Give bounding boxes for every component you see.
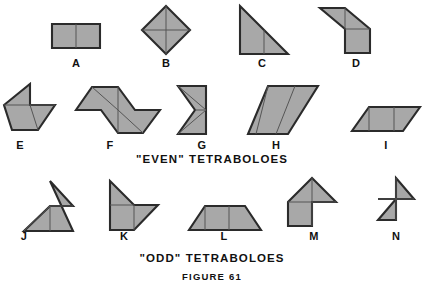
shape-label-j: J — [21, 230, 27, 242]
figure-caption: FIGURE 61 — [182, 271, 242, 282]
tetraboloes-canvas: A B C D E — [0, 0, 424, 286]
shape-label-l: L — [220, 230, 227, 242]
shape-label-e: E — [16, 139, 24, 151]
shape-label-c: C — [258, 57, 266, 69]
shape-label-d: D — [352, 57, 360, 69]
section-caption-even: "EVEN" TETRABOLOES — [136, 153, 288, 165]
shape-label-b: B — [162, 57, 170, 69]
shape-label-f: F — [106, 139, 113, 151]
shape-label-k: K — [120, 230, 128, 242]
shape-label-i: I — [384, 139, 387, 151]
figure-61-diagram: A B C D E — [0, 0, 424, 286]
shape-label-m: M — [309, 230, 318, 242]
shape-label-h: H — [272, 139, 280, 151]
section-caption-odd: "ODD" TETRABOLOES — [139, 252, 284, 264]
shape-label-g: G — [198, 139, 207, 151]
shape-label-n: N — [392, 230, 400, 242]
shape-label-a: A — [72, 57, 80, 69]
